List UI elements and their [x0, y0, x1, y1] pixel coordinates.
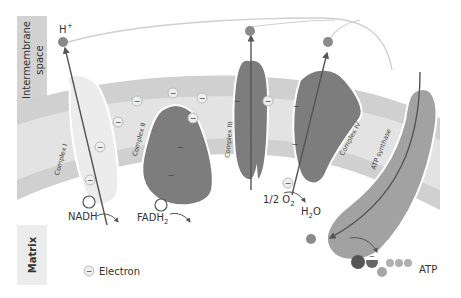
svg-text:space: space [34, 45, 45, 74]
legend-electron: − Electron [84, 266, 140, 277]
proton-path-curve-2 [250, 20, 335, 27]
proton-icon [245, 26, 255, 36]
electron-icon: − [188, 113, 198, 123]
svg-text:−: − [292, 140, 299, 149]
svg-text:−: − [115, 118, 122, 127]
svg-text:H2O: H2O [301, 206, 321, 220]
electron-icon: − [168, 88, 178, 98]
svg-text:−: − [285, 179, 292, 188]
svg-text:H: H [59, 24, 67, 35]
svg-text:−: − [168, 171, 175, 180]
svg-text:−: − [97, 143, 104, 152]
svg-text:−: − [293, 102, 300, 111]
electron-icon: − [113, 117, 123, 127]
electron-icon: − [283, 178, 293, 188]
svg-text:ATP: ATP [419, 264, 437, 275]
oxygen-reduction: 1/2 O2 H2O [263, 192, 321, 220]
electron-icon: − [84, 266, 94, 276]
proton-icon [306, 234, 316, 244]
electron-icon: − [132, 96, 142, 106]
svg-text:−: − [177, 143, 184, 152]
proton-icon [323, 37, 333, 47]
electron-icon: − [95, 142, 105, 152]
svg-text:NADH: NADH [68, 211, 98, 222]
electron-transport-chain-diagram: Intermembrane space Matrix Complex I Com… [0, 0, 461, 298]
svg-text:FADH2: FADH2 [137, 212, 168, 226]
svg-text:−: − [234, 97, 241, 106]
electron-icon: − [197, 93, 207, 103]
svg-text:Intermembrane: Intermembrane [21, 21, 32, 99]
intermembrane-space-label: Intermembrane space [17, 16, 47, 104]
svg-text:−: − [170, 89, 177, 98]
svg-text:Electron: Electron [99, 266, 140, 277]
svg-text:−: − [134, 97, 141, 106]
svg-text:1/2 O2: 1/2 O2 [263, 194, 295, 208]
svg-text:−: − [265, 97, 272, 106]
svg-text:−: − [86, 267, 93, 276]
svg-text:Matrix: Matrix [27, 236, 38, 273]
electron-icon: − [85, 175, 95, 185]
electron-icon: − [263, 96, 273, 106]
svg-text:−: − [190, 114, 197, 123]
svg-text:−: − [199, 94, 206, 103]
proton-icon [58, 37, 68, 47]
svg-text:−: − [87, 176, 94, 185]
svg-text:+: + [67, 22, 73, 30]
matrix-label: Matrix [17, 225, 47, 285]
